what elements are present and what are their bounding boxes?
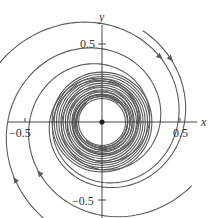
x-tick-label-pos: 0.5 <box>173 126 188 140</box>
y-tick-label-pos: 0.5 <box>80 37 95 51</box>
x-axis-label: x <box>200 115 207 129</box>
trajectories <box>0 22 192 218</box>
y-axis-label: y <box>98 10 105 24</box>
direction-arrow-icon <box>37 171 43 178</box>
y-tick-label-neg: −0.5 <box>72 194 94 208</box>
phase-portrait-svg: y x 0.5 −0.5 −0.5 0.5 <box>0 0 217 218</box>
x-tick-label-neg: −0.5 <box>9 126 31 140</box>
direction-arrow-icon <box>167 55 173 62</box>
phase-portrait-figure: y x 0.5 −0.5 −0.5 0.5 <box>0 0 217 218</box>
equilibrium-point <box>99 119 104 124</box>
